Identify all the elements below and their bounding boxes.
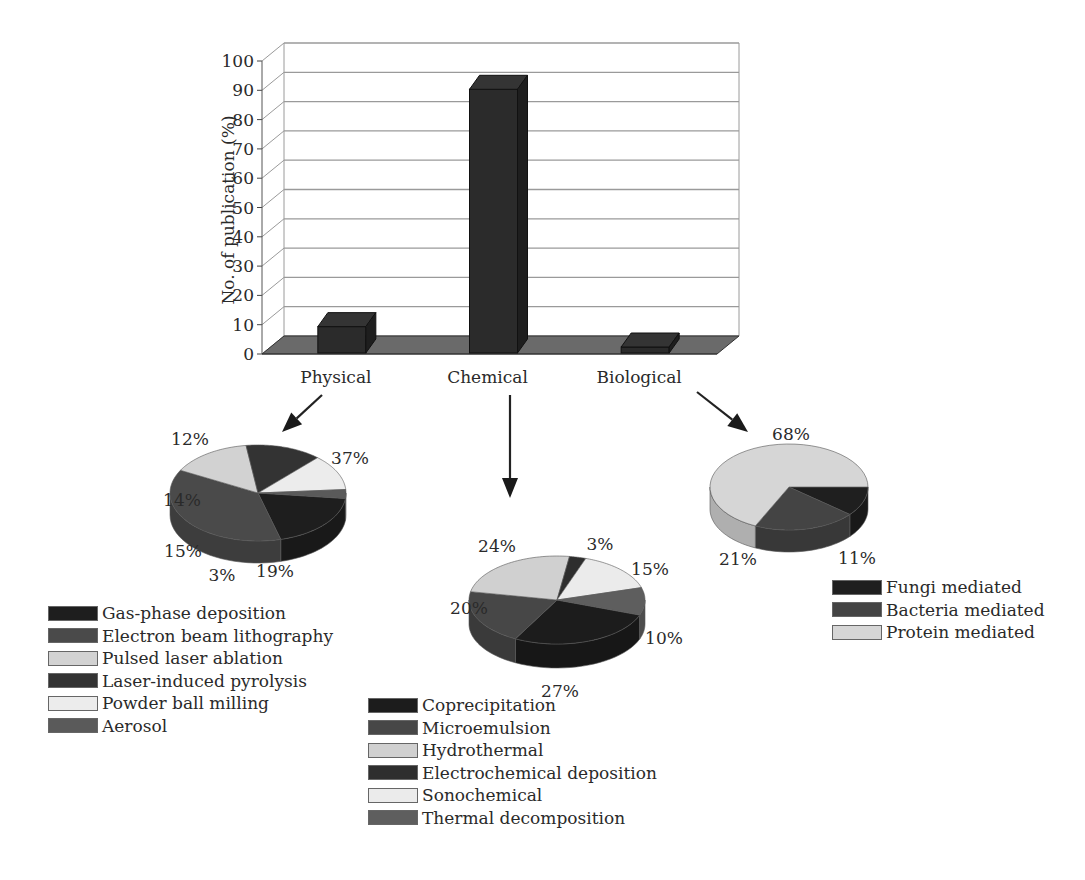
y-axis-label: No. of publication (%) [218, 115, 238, 304]
gridline-diagonal [262, 307, 284, 325]
legend-swatch [48, 606, 98, 621]
pie-chemical: 27%20%24%3%15%10% [450, 534, 683, 701]
bar-chart: 0102030405060708090100PhysicalChemicalBi… [218, 43, 739, 387]
legend-item: Thermal decomposition [368, 807, 657, 830]
legend-item: Hydrothermal [368, 739, 657, 762]
legend-label: Sonochemical [422, 785, 542, 805]
gridline-diagonal [262, 190, 284, 208]
pie-biological: 11%21%68% [710, 424, 876, 569]
legend-swatch [48, 651, 98, 666]
legend-label: Gas-phase deposition [102, 603, 286, 623]
gridline-diagonal [262, 248, 284, 266]
x-tick-label: Biological [597, 367, 682, 387]
pie-slice [471, 556, 570, 600]
legend-swatch [832, 602, 882, 617]
bar-biological [621, 333, 679, 353]
bar-side [518, 75, 528, 353]
y-tick-label: 0 [243, 344, 254, 364]
legend-label: Electrochemical deposition [422, 763, 657, 783]
legend-label: Powder ball milling [102, 693, 269, 713]
legend-item: Microemulsion [368, 717, 657, 740]
legend-label: Electron beam lithography [102, 626, 333, 646]
legend-swatch [48, 628, 98, 643]
bar-front [318, 327, 366, 353]
pie-value-label: 3% [209, 565, 236, 585]
biological-legend: Fungi mediated Bacteria mediated Protein… [832, 576, 1045, 644]
pie-value-label: 15% [164, 541, 202, 561]
pie-physical: 19%37%15%14%12%3% [163, 429, 369, 585]
legend-item: Laser-induced pyrolysis [48, 670, 333, 693]
legend-label: Fungi mediated [886, 577, 1022, 597]
legend-swatch [832, 580, 882, 595]
legend-item: Electrochemical deposition [368, 762, 657, 785]
legend-swatch [368, 810, 418, 825]
arrow-chemical-icon [502, 395, 518, 498]
legend-swatch [368, 698, 418, 713]
legend-label: Coprecipitation [422, 695, 556, 715]
legend-swatch [368, 743, 418, 758]
legend-item: Electron beam lithography [48, 625, 333, 648]
gridline-diagonal [262, 72, 284, 90]
physical-legend: Gas-phase deposition Electron beam litho… [48, 602, 333, 737]
pie-value-label: 19% [256, 561, 294, 581]
legend-item: Powder ball milling [48, 692, 333, 715]
bar-chemical [470, 75, 528, 353]
legend-item: Fungi mediated [832, 576, 1045, 599]
pie-value-label: 24% [478, 536, 516, 556]
pie-value-label: 37% [331, 448, 369, 468]
pie-value-label: 15% [631, 559, 669, 579]
legend-label: Aerosol [102, 716, 167, 736]
legend-item: Gas-phase deposition [48, 602, 333, 625]
arrow-biological-icon [697, 392, 748, 432]
pie-value-label: 3% [587, 534, 614, 554]
arrow-physical-icon [282, 395, 322, 432]
legend-label: Protein mediated [886, 622, 1035, 642]
gridline-diagonal [262, 43, 284, 61]
legend-label: Thermal decomposition [422, 808, 625, 828]
pie-value-label: 14% [163, 490, 201, 510]
legend-item: Coprecipitation [368, 694, 657, 717]
bar-physical [318, 313, 376, 353]
legend-item: Pulsed laser ablation [48, 647, 333, 670]
gridline-diagonal [262, 160, 284, 178]
gridline-diagonal [262, 102, 284, 120]
x-tick-label: Physical [300, 367, 371, 387]
legend-item: Bacteria mediated [832, 599, 1045, 622]
legend-label: Pulsed laser ablation [102, 648, 283, 668]
legend-swatch [48, 673, 98, 688]
x-tick-label: Chemical [447, 367, 528, 387]
legend-label: Microemulsion [422, 718, 551, 738]
legend-swatch [368, 788, 418, 803]
y-tick-label: 90 [232, 80, 254, 100]
bar-front [470, 89, 518, 353]
pie-value-label: 11% [838, 548, 876, 568]
pie-value-label: 10% [645, 628, 683, 648]
legend-swatch [368, 765, 418, 780]
legend-label: Hydrothermal [422, 740, 543, 760]
legend-label: Bacteria mediated [886, 600, 1045, 620]
bar-front [621, 347, 669, 353]
legend-swatch [368, 720, 418, 735]
pie-value-label: 68% [772, 424, 810, 444]
legend-label: Laser-induced pyrolysis [102, 671, 307, 691]
gridline-diagonal [262, 277, 284, 295]
legend-swatch [48, 696, 98, 711]
y-tick-label: 10 [232, 315, 254, 335]
pie-value-label: 12% [171, 429, 209, 449]
legend-swatch [48, 718, 98, 733]
legend-item: Protein mediated [832, 621, 1045, 644]
chemical-legend: Coprecipitation Microemulsion Hydrotherm… [368, 694, 657, 829]
legend-item: Aerosol [48, 715, 333, 738]
pie-value-label: 20% [450, 598, 488, 618]
legend-swatch [832, 625, 882, 640]
gridline-diagonal [262, 219, 284, 237]
legend-item: Sonochemical [368, 784, 657, 807]
y-tick-label: 100 [222, 51, 254, 71]
pie-value-label: 21% [719, 549, 757, 569]
gridline-diagonal [262, 131, 284, 149]
